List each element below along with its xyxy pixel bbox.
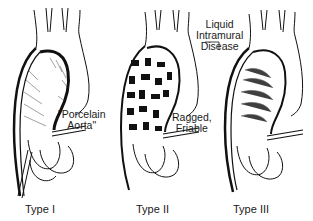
caption-type-1: Type I [25, 203, 55, 215]
annotation-liquid-intramural-disease: Liquid Intramural Disease [196, 19, 243, 52]
annotation-line-3: Disease [196, 41, 243, 52]
annotation-porcelain-aorta: "Porcelain Aorta" [58, 109, 106, 131]
panel-type-2: Ragged, Friable Type II [105, 0, 205, 221]
aortic-disease-figure: "Porcelain Aorta" Type I [0, 0, 313, 221]
annotation-line-2: Aorta" [58, 120, 106, 131]
aorta-illustration-type-1 [0, 0, 105, 200]
caption-type-2: Type II [136, 203, 169, 215]
caption-type-3: Type III [233, 203, 269, 215]
aorta-illustration-type-2 [105, 0, 205, 200]
panel-type-1: "Porcelain Aorta" Type I [0, 0, 105, 221]
